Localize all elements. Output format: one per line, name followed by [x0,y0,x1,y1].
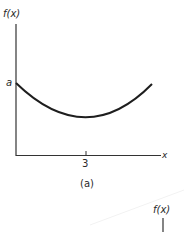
figure-canvas: f(x) x a 3 (a) f(x) [0,0,184,232]
panel-b-y-axis-label: f(x) [153,204,170,215]
panel-caption: (a) [80,178,94,189]
y-intercept-label: a [6,77,12,88]
x-axis-label: x [161,150,168,160]
function-curve [16,83,152,117]
y-axis-label: f(x) [3,8,20,19]
panel-a: f(x) x a 3 (a) [3,8,168,189]
x-tick-label: 3 [82,158,88,169]
panel-b-partial: f(x) [153,204,170,232]
